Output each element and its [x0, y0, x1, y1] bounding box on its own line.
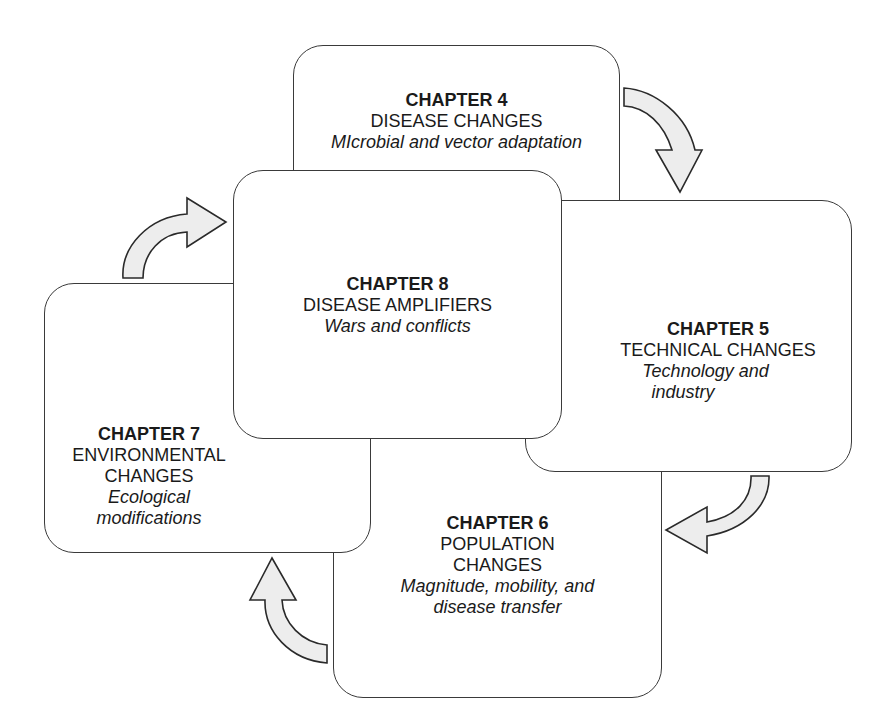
cycle-arrows: [0, 0, 893, 722]
arrow-ch5-to-ch6-icon: [666, 476, 769, 553]
arrow-ch4-to-ch5-icon: [624, 88, 702, 192]
arrow-ch7-to-ch8-icon: [123, 198, 226, 278]
arrow-ch6-to-ch7-icon: [250, 558, 327, 663]
